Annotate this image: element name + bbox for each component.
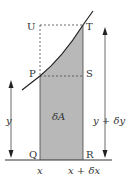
label-U: U <box>27 22 35 32</box>
diagram-graphics <box>0 0 128 181</box>
right-height-label: y + δy <box>93 116 125 126</box>
area-under-curve-diagram: U T P S Q R δA y y + δy x x + δx <box>0 0 128 181</box>
left-height-label: y <box>6 116 12 126</box>
label-S: S <box>86 69 93 79</box>
label-R: R <box>86 150 94 160</box>
right-height-arrow <box>103 27 108 158</box>
x-label: x <box>37 166 43 176</box>
label-T: T <box>86 22 93 32</box>
label-P: P <box>29 69 36 79</box>
shaded-strip <box>40 25 83 160</box>
area-label: δA <box>52 112 65 122</box>
x-plus-label: x + δx <box>68 166 100 176</box>
label-Q: Q <box>29 150 37 160</box>
